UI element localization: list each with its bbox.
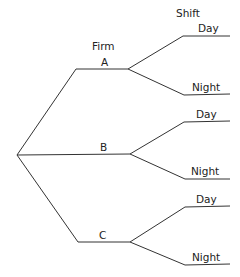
branch-b-day: [130, 121, 230, 154]
shift-header: Shift: [176, 7, 200, 19]
firm-b-label: B: [100, 141, 107, 153]
firm-c-label: C: [99, 229, 106, 241]
c-day-label: Day: [196, 193, 217, 205]
branch-firm-c: [17, 155, 130, 242]
branch-c-day: [130, 206, 230, 242]
branch-firm-a: [17, 69, 128, 155]
b-day-label: Day: [196, 108, 217, 120]
firm-header: Firm: [92, 40, 115, 52]
a-day-label: Day: [198, 22, 219, 34]
branch-firm-b: [17, 154, 130, 155]
branch-a-day: [128, 36, 230, 69]
b-night-label: Night: [191, 165, 219, 177]
c-night-label: Night: [192, 251, 220, 263]
a-night-label: Night: [192, 81, 220, 93]
tree-lines: [0, 0, 240, 277]
tree-diagram: Shift Firm A Day Night B Day Night C Day…: [0, 0, 240, 277]
firm-a-label: A: [101, 56, 108, 68]
